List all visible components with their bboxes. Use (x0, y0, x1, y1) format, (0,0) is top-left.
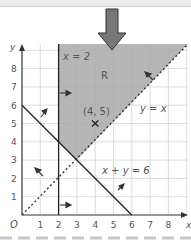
svg-text:6: 6 (129, 220, 135, 230)
svg-text:4: 4 (11, 137, 17, 147)
x-tick-labels: 1 2 3 4 5 6 7 8 (38, 220, 172, 230)
svg-text:5: 5 (11, 119, 17, 129)
svg-text:3: 3 (11, 155, 17, 165)
svg-text:7: 7 (11, 82, 17, 92)
svg-text:1: 1 (11, 192, 17, 202)
inequality-graph: (4, 5) x = 2 y = x x + y = 6 R O x y 1 2… (0, 0, 191, 242)
svg-text:3: 3 (74, 220, 80, 230)
origin-label: O (10, 219, 18, 230)
label-x-equals-2: x = 2 (62, 51, 90, 62)
svg-text:4: 4 (92, 220, 98, 230)
svg-text:8: 8 (166, 220, 172, 230)
y-axis-label: y (9, 42, 16, 52)
y-axis-arrow-icon (19, 44, 25, 51)
svg-text:5: 5 (111, 220, 117, 230)
label-y-equals-x: y = x (139, 103, 167, 114)
down-arrow-icon (98, 9, 126, 50)
label-x-plus-y-equals-6: x + y = 6 (101, 165, 150, 176)
svg-text:2: 2 (11, 174, 17, 184)
svg-text:2: 2 (56, 220, 62, 230)
svg-text:6: 6 (11, 101, 17, 111)
region-label: R (101, 70, 108, 81)
svg-text:1: 1 (38, 220, 44, 230)
y-tick-labels: 1 2 3 4 5 6 7 8 (11, 64, 17, 202)
svg-text:7: 7 (147, 220, 153, 230)
svg-text:8: 8 (11, 64, 17, 74)
x-axis-label: x (185, 220, 191, 230)
point-label: (4, 5) (83, 106, 110, 117)
